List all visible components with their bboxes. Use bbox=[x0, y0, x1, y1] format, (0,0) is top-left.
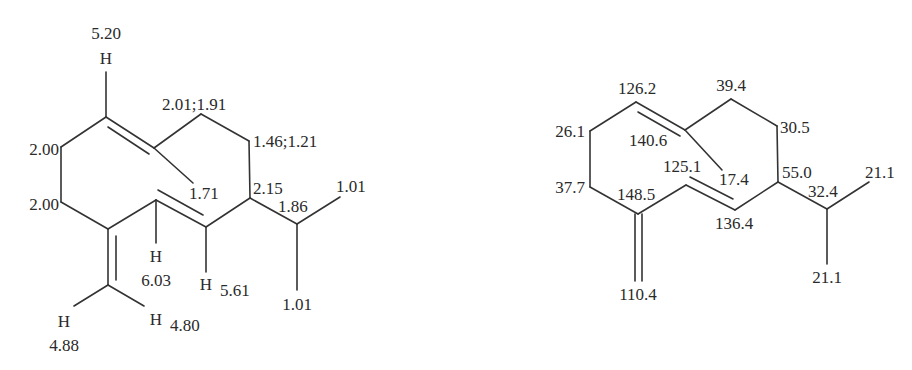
label-ch2-a: 2.01;1.91 bbox=[162, 95, 226, 114]
label-ch-ring: 2.15 bbox=[253, 179, 283, 198]
label-c-140-6: 140.6 bbox=[629, 131, 667, 150]
label-h-480-atom: H bbox=[150, 310, 162, 329]
label-c-148-5: 148.5 bbox=[617, 185, 655, 204]
label-c-30-5: 30.5 bbox=[780, 118, 810, 137]
label-c-32-4: 32.4 bbox=[808, 182, 838, 201]
label-methyl-iso-a: 1.01 bbox=[336, 177, 366, 196]
label-h-488-value: 4.88 bbox=[49, 336, 79, 355]
right-structure-13c-nmr: 126.2 39.4 26.1 140.6 30.5 125.1 17.4 37… bbox=[555, 76, 895, 304]
label-c-125-1: 125.1 bbox=[663, 157, 701, 176]
label-c-26-1: 26.1 bbox=[555, 122, 585, 141]
left-labels: 5.20 H 2.01;1.91 1.46;1.21 2.00 2.00 1.7… bbox=[29, 24, 366, 355]
label-h-top-value: 5.20 bbox=[91, 24, 121, 43]
label-c-110-4: 110.4 bbox=[619, 285, 657, 304]
nmr-structures-figure: 5.20 H 2.01;1.91 1.46;1.21 2.00 2.00 1.7… bbox=[0, 0, 912, 370]
label-c-17-4: 17.4 bbox=[719, 170, 749, 189]
label-methyl-vinyl: 1.71 bbox=[189, 184, 219, 203]
right-labels: 126.2 39.4 26.1 140.6 30.5 125.1 17.4 37… bbox=[555, 76, 895, 304]
label-h-561-value: 5.61 bbox=[220, 281, 250, 300]
label-h-top-atom: H bbox=[100, 49, 112, 68]
label-ch2-b: 1.46;1.21 bbox=[253, 132, 317, 151]
label-h-488-atom: H bbox=[58, 312, 70, 331]
label-h-561-atom: H bbox=[200, 275, 212, 294]
label-c-37-7: 37.7 bbox=[555, 178, 585, 197]
label-h-603-atom: H bbox=[150, 247, 162, 266]
label-c-21-1-b: 21.1 bbox=[812, 268, 842, 287]
label-ch-isopropyl: 1.86 bbox=[278, 197, 308, 216]
label-c-136-4: 136.4 bbox=[715, 214, 754, 233]
label-h-603-value: 6.03 bbox=[141, 271, 171, 290]
label-ch2-d: 2.00 bbox=[29, 195, 59, 214]
label-h-480-value: 4.80 bbox=[170, 316, 200, 335]
left-structure-1h-nmr: 5.20 H 2.01;1.91 1.46;1.21 2.00 2.00 1.7… bbox=[29, 24, 366, 355]
label-ch2-c: 2.00 bbox=[29, 140, 59, 159]
label-c-39-4: 39.4 bbox=[716, 76, 746, 95]
label-c-126-2: 126.2 bbox=[618, 79, 656, 98]
label-methyl-iso-b: 1.01 bbox=[282, 295, 312, 314]
label-c-21-1-a: 21.1 bbox=[865, 163, 895, 182]
label-c-55-0: 55.0 bbox=[782, 163, 812, 182]
